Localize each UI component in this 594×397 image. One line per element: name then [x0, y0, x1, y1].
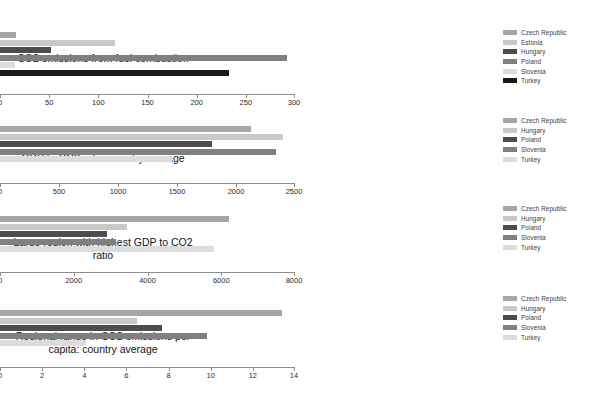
x-axis-tick-label: 200 [190, 98, 203, 107]
x-axis-tick-label: 2000 [228, 187, 245, 196]
legend-item-estonia[interactable]: Estonia [503, 38, 594, 48]
x-axis-tick-label: 0 [0, 187, 2, 196]
bar-estonia[interactable] [0, 40, 115, 46]
bar-slovenia[interactable] [0, 239, 116, 245]
chart-panel-co2-emissions-fuel-combustion: CO2 emissions from fuel combustion050100… [0, 10, 594, 105]
legend-item-turkey[interactable]: Turkey [503, 154, 594, 164]
x-axis-tick-label: 8 [166, 371, 170, 380]
legend-swatch-icon [503, 128, 517, 133]
legend-swatch-icon [503, 225, 517, 230]
bar-hungary[interactable] [0, 47, 51, 53]
chart-panel-large-region-highest-gdp-to-co2-ratio: Large region with highest GDP to CO2 rat… [0, 196, 594, 291]
x-axis-tick-label: 14 [290, 371, 298, 380]
bar-czech-republic[interactable] [0, 126, 251, 132]
legend-item-poland[interactable]: Poland [503, 313, 594, 323]
legend-item-slovenia[interactable]: Slovenia [503, 323, 594, 333]
x-axis: 02000400060008000 [0, 272, 295, 273]
legend-label: Turkey [521, 244, 541, 251]
legend-item-czech-republic[interactable]: Czech Republic [503, 28, 594, 38]
legend-item-slovenia[interactable]: Slovenia [503, 66, 594, 76]
legend-item-slovenia[interactable]: Slovenia [503, 233, 594, 243]
legend-swatch-icon [503, 325, 517, 330]
legend-label: Hungary [521, 48, 546, 55]
x-axis-tick-label: 1500 [169, 187, 186, 196]
bar-poland[interactable] [0, 55, 287, 61]
bar-poland[interactable] [0, 325, 162, 331]
legend-swatch-icon [503, 245, 517, 250]
legend-item-poland[interactable]: Poland [503, 135, 594, 145]
x-axis-tick-label: 4 [82, 371, 86, 380]
bar-poland[interactable] [0, 141, 212, 147]
x-axis: 05001000150020002500 [0, 183, 295, 184]
legend-swatch-icon [503, 59, 517, 64]
bar-czech-republic[interactable] [0, 32, 16, 38]
legend-swatch-icon [503, 216, 517, 221]
legend-item-hungary[interactable]: Hungary [503, 304, 594, 314]
legend-swatch-icon [503, 49, 517, 54]
bar-hungary[interactable] [0, 224, 127, 230]
legend-item-czech-republic[interactable]: Czech Republic [503, 204, 594, 214]
legend-label: Hungary [521, 305, 546, 312]
legend-label: Turkey [521, 156, 541, 163]
legend-item-czech-republic[interactable]: Czech Republic [503, 116, 594, 126]
legend-label: Czech Republic [521, 205, 567, 212]
legend-label: Turkey [521, 334, 541, 341]
bar-hungary[interactable] [0, 318, 137, 324]
bar-turkey[interactable] [0, 246, 214, 252]
legend-item-slovenia[interactable]: Slovenia [503, 145, 594, 155]
bar-turkey[interactable] [0, 70, 229, 76]
legend-swatch-icon [503, 306, 517, 311]
x-axis-tick-label: 150 [141, 98, 154, 107]
legend-swatch-icon [503, 40, 517, 45]
legend-item-hungary[interactable]: Hungary [503, 126, 594, 136]
bar-slovenia[interactable] [0, 62, 15, 68]
legend-swatch-icon [503, 30, 517, 35]
bar-poland[interactable] [0, 231, 107, 237]
legend-label: Hungary [521, 215, 546, 222]
legend-label: Hungary [521, 127, 546, 134]
chart-panel-gdp-to-co2-ratio-country-average: GDP to CO2 ratio: country average0500100… [0, 108, 594, 203]
bar-slovenia[interactable] [0, 149, 276, 155]
legend-item-turkey[interactable]: Turkey [503, 76, 594, 86]
legend-label: Czech Republic [521, 117, 567, 124]
legend-item-czech-republic[interactable]: Czech Republic [503, 294, 594, 304]
x-axis-tick-label: 1000 [110, 187, 127, 196]
legend-item-turkey[interactable]: Turkey [503, 332, 594, 342]
legend-swatch-icon [503, 315, 517, 320]
x-axis-tick-label: 500 [53, 187, 66, 196]
x-axis-tick-label: 250 [240, 98, 253, 107]
x-axis-tick-label: 50 [45, 98, 53, 107]
bar-czech-republic[interactable] [0, 310, 282, 316]
x-axis-tick-label: 0 [0, 98, 2, 107]
x-axis-tick-label: 300 [288, 98, 301, 107]
chart-legend: Czech RepublicHungaryPolandSloveniaTurke… [503, 116, 594, 164]
legend-label: Czech Republic [521, 295, 567, 302]
legend-label: Turkey [521, 77, 541, 84]
bar-slovenia[interactable] [0, 333, 207, 339]
legend-item-poland[interactable]: Poland [503, 223, 594, 233]
legend-swatch-icon [503, 137, 517, 142]
x-axis: 02468101214 [0, 367, 295, 368]
legend-swatch-icon [503, 147, 517, 152]
legend-item-turkey[interactable]: Turkey [503, 242, 594, 252]
legend-label: Slovenia [521, 234, 546, 241]
legend-swatch-icon [503, 78, 517, 83]
bar-turkey[interactable] [0, 340, 86, 346]
legend-label: Slovenia [521, 68, 546, 75]
legend-item-poland[interactable]: Poland [503, 57, 594, 67]
legend-item-hungary[interactable]: Hungary [503, 214, 594, 224]
legend-swatch-icon [503, 118, 517, 123]
legend-swatch-icon [503, 206, 517, 211]
x-axis-tick-label: 100 [92, 98, 105, 107]
legend-label: Poland [521, 224, 541, 231]
x-axis-tick-label: 0 [0, 371, 2, 380]
chart-legend: Czech RepublicHungaryPolandSloveniaTurke… [503, 204, 594, 252]
bar-hungary[interactable] [0, 134, 283, 140]
x-axis-tick-label: 12 [249, 371, 257, 380]
legend-label: Slovenia [521, 146, 546, 153]
chart-legend: Czech RepublicEstoniaHungaryPolandSloven… [503, 28, 594, 86]
x-axis-tick-label: 2500 [286, 187, 303, 196]
bar-turkey[interactable] [0, 156, 172, 162]
bar-czech-republic[interactable] [0, 216, 229, 222]
legend-item-hungary[interactable]: Hungary [503, 47, 594, 57]
